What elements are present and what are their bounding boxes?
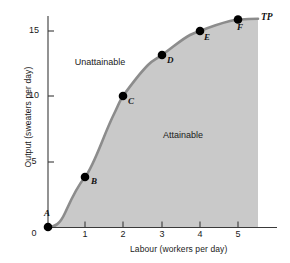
attainable-region-label: Attainable bbox=[150, 130, 216, 140]
x-tick-label-5: 5 bbox=[230, 229, 246, 239]
attainable-region-fill bbox=[48, 20, 258, 227]
data-point-label-e: E bbox=[204, 32, 210, 42]
y-tick-label-0: 0 bbox=[26, 228, 42, 238]
curve-name-label: TP bbox=[261, 12, 273, 22]
x-tick-label-3: 3 bbox=[154, 229, 170, 239]
y-axis-title: Output (sweaters per day) bbox=[23, 37, 33, 197]
data-point-label-a: A bbox=[44, 208, 50, 218]
data-point-label-c: C bbox=[128, 96, 134, 106]
data-point-label-f: F bbox=[237, 22, 243, 32]
total-product-chart: Output (sweaters per day) Labour (worker… bbox=[0, 0, 290, 263]
x-tick-label-1: 1 bbox=[77, 229, 93, 239]
data-point-label-b: B bbox=[91, 176, 97, 186]
x-tick-label-2: 2 bbox=[115, 229, 131, 239]
data-point-e[interactable] bbox=[196, 27, 205, 36]
data-point-c[interactable] bbox=[119, 92, 128, 101]
chart-plot-area bbox=[0, 0, 290, 263]
y-tick-label-10: 10 bbox=[26, 90, 42, 100]
data-point-label-d: D bbox=[167, 55, 174, 65]
data-point-a[interactable] bbox=[44, 223, 53, 232]
data-point-d[interactable] bbox=[158, 51, 167, 60]
y-tick-label-5: 5 bbox=[26, 156, 42, 166]
y-tick-label-15: 15 bbox=[26, 25, 42, 35]
x-tick-label-4: 4 bbox=[192, 229, 208, 239]
data-point-b[interactable] bbox=[81, 173, 90, 182]
x-axis-title: Labour (workers per day) bbox=[130, 244, 227, 254]
unattainable-region-label: Unattainable bbox=[58, 57, 142, 67]
